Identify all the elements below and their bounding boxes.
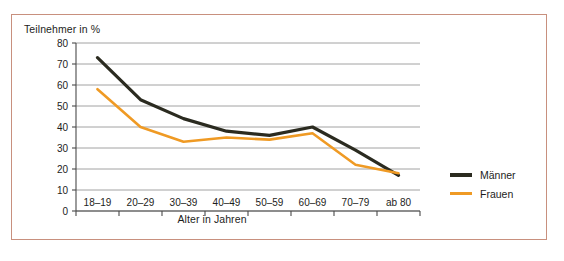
chart-legend: MännerFrauen [450, 165, 544, 203]
y-tick-label: 10 [42, 185, 68, 196]
y-tick-label: 70 [42, 59, 68, 70]
x-tick-label: ab 80 [371, 197, 427, 208]
legend-swatch-line-icon [450, 192, 472, 195]
series-line-1 [98, 58, 399, 176]
x-axis-title: Alter in Jahren [12, 213, 412, 225]
legend-swatch-line-icon [450, 173, 472, 177]
y-tick-label: 30 [42, 143, 68, 154]
legend-item: Frauen [450, 184, 544, 203]
legend-item: Männer [450, 165, 544, 184]
y-tick-label: 20 [42, 164, 68, 175]
legend-label: Männer [480, 169, 516, 181]
y-tick-label: 40 [42, 122, 68, 133]
legend-label: Frauen [480, 188, 513, 200]
chart-figure: Teilnehmer in % 01020304050607080 18–192… [11, 14, 547, 240]
y-tick-label: 50 [42, 101, 68, 112]
y-tick-label: 80 [42, 38, 68, 49]
y-tick-label: 60 [42, 80, 68, 91]
plot-wrapper: Teilnehmer in % 01020304050607080 18–192… [12, 15, 548, 241]
